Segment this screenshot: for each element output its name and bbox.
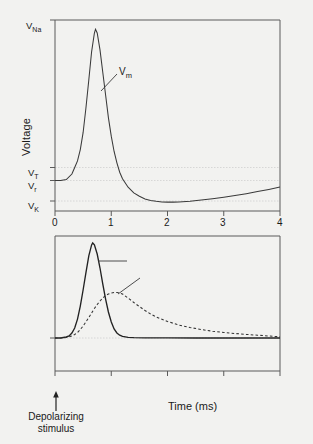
gk-leader-line <box>118 278 140 294</box>
y-tick-label-vna: VNa <box>26 20 41 33</box>
voltage-axis-frame <box>55 20 280 211</box>
stimulus-annotation: Depolarizing stimulus <box>2 411 110 434</box>
voltage-x-tick-2: 2 <box>164 217 170 228</box>
voltage-y-axis-label: Voltage <box>20 118 32 156</box>
y-tick-label-vr: Vr <box>28 180 37 193</box>
voltage-gridlines <box>55 168 280 202</box>
voltage-x-tick-4: 4 <box>277 217 283 228</box>
conductance-x-ticks <box>55 371 280 376</box>
voltage-x-ticks <box>55 211 280 216</box>
x-axis-label: Time (ms) <box>168 400 217 412</box>
voltage-panel: Voltage VNa VT Vr VK Vm 0 1 2 3 4 <box>0 6 313 218</box>
stimulus-arrow-icon <box>48 390 68 412</box>
voltage-y-ticks <box>50 20 55 201</box>
action-potential-figure: Voltage VNa VT Vr VK Vm 0 1 2 3 4 <box>0 0 313 444</box>
conductance-plot-svg <box>0 228 313 383</box>
stimulus-line-2: stimulus <box>2 423 110 435</box>
vm-curve <box>55 29 280 202</box>
gk-curve <box>55 293 280 339</box>
voltage-x-tick-3: 3 <box>220 217 226 228</box>
voltage-x-tick-0: 0 <box>52 217 58 228</box>
y-tick-label-vk: VK <box>28 200 39 213</box>
vm-curve-label: Vm <box>119 66 132 80</box>
voltage-plot-svg <box>0 6 313 218</box>
stimulus-line-1: Depolarizing <box>2 411 110 423</box>
voltage-x-tick-1: 1 <box>108 217 114 228</box>
y-tick-label-vt: VT <box>28 167 39 180</box>
conductance-panel: Conductance 0 gNa gK 0 1 2 3 4 <box>0 228 313 383</box>
gna-curve <box>55 243 280 338</box>
